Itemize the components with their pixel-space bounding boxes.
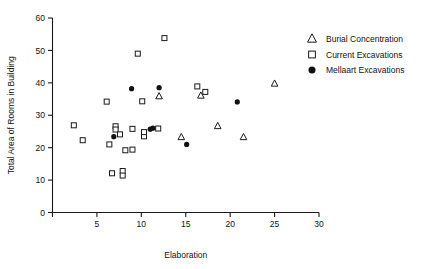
series-triangle	[156, 80, 278, 140]
data-point-triangle	[240, 133, 247, 139]
data-point-square	[71, 123, 76, 128]
x-tick-label: 25	[270, 219, 280, 229]
data-point-square	[162, 36, 167, 41]
data-point-square	[203, 89, 208, 94]
data-point-square	[80, 138, 85, 143]
x-tick-label: 15	[181, 219, 191, 229]
data-point-square	[113, 127, 118, 132]
x-tick-label: 30	[314, 219, 324, 229]
series-square	[71, 36, 207, 178]
data-point-square	[140, 99, 145, 104]
data-point-triangle	[214, 122, 221, 128]
data-point-triangle	[178, 133, 185, 139]
data-point-square	[110, 171, 115, 176]
data-point-square	[141, 130, 146, 135]
x-axis-title: Elaboration	[164, 250, 207, 260]
data-point-circle	[184, 142, 189, 147]
data-point-square	[107, 142, 112, 147]
chart-canvas: 010203040506051015202530ElaborationTotal…	[0, 0, 428, 269]
x-tick-label: 20	[225, 219, 235, 229]
data-point-triangle	[156, 93, 163, 99]
y-tick-label: 40	[36, 78, 46, 88]
series-circle	[111, 85, 240, 147]
x-tick-label: 10	[137, 219, 147, 229]
legend-marker-triangle	[308, 34, 317, 42]
legend-label: Current Excavations	[326, 50, 403, 60]
legend-marker-square	[309, 51, 316, 58]
legend-marker-circle	[308, 66, 315, 73]
data-point-square	[120, 173, 125, 178]
data-point-square	[104, 99, 109, 104]
y-tick-label: 50	[36, 46, 46, 56]
legend-label: Mellaart Excavations	[326, 65, 404, 75]
y-tick-label: 20	[36, 143, 46, 153]
data-point-circle	[157, 85, 162, 90]
y-tick-label: 60	[36, 13, 46, 23]
data-point-square	[135, 51, 140, 56]
data-point-square	[195, 84, 200, 89]
data-point-triangle	[271, 80, 278, 86]
y-tick-label: 10	[36, 175, 46, 185]
data-point-circle	[129, 86, 134, 91]
data-point-square	[130, 126, 135, 131]
scatter-chart: 010203040506051015202530ElaborationTotal…	[0, 0, 428, 269]
legend-label: Burial Concentration	[326, 34, 403, 44]
data-point-square	[156, 126, 161, 131]
x-tick-label: 5	[95, 219, 100, 229]
data-point-circle	[235, 99, 240, 104]
data-point-circle	[150, 126, 155, 131]
y-tick-label: 30	[36, 110, 46, 120]
data-point-square	[123, 148, 128, 153]
y-tick-label: 0	[40, 208, 45, 218]
data-point-square	[130, 147, 135, 152]
y-axis-title: Total Area of Rooms in Building	[6, 56, 16, 174]
data-point-circle	[111, 134, 116, 139]
data-point-square	[118, 132, 123, 137]
